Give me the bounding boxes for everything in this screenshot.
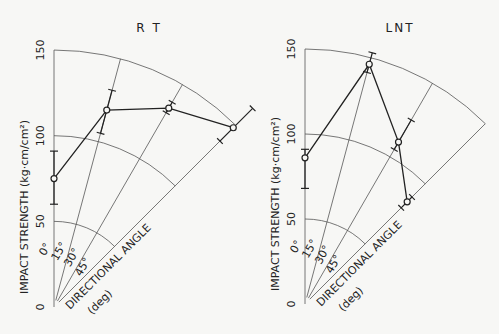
radial-axis-title: IMPACT STRENGTH (kg·cm/cm²) <box>269 117 282 291</box>
radial-arc-100 <box>305 134 425 184</box>
data-point <box>230 125 236 131</box>
radial-tick-label: 0 <box>285 301 298 308</box>
data-point <box>302 155 308 161</box>
radial-tick-label: 50 <box>285 212 298 226</box>
radial-arc-150 <box>54 50 236 125</box>
error-cap <box>408 118 415 122</box>
lnt-panel: 050100150IMPACT STRENGTH (kg·cm/cm²)0°15… <box>269 21 485 314</box>
angle-ray-45 <box>310 124 486 300</box>
radial-axis-title: IMPACT STRENGTH (kg·cm/cm²) <box>18 120 31 294</box>
data-point <box>404 199 410 205</box>
rt-panel: 050100150IMPACT STRENGTH (kg·cm/cm²)0°15… <box>18 21 255 317</box>
radial-tick-label: 0 <box>34 304 47 311</box>
error-cap <box>169 100 176 104</box>
radial-tick-label: 150 <box>285 39 298 60</box>
radial-tick-label: 100 <box>285 124 298 145</box>
data-point <box>366 61 372 67</box>
radial-arc-150 <box>305 49 485 124</box>
panel-title: R T <box>136 21 161 35</box>
error-cap <box>391 147 398 151</box>
data-point <box>104 107 110 113</box>
panel-title: LNT <box>386 21 415 35</box>
radial-tick-label: 150 <box>34 40 47 61</box>
figure: 050100150IMPACT STRENGTH (kg·cm/cm²)0°15… <box>0 0 499 334</box>
radial-arc-100 <box>54 136 175 186</box>
data-point <box>396 139 402 145</box>
polar-charts: 050100150IMPACT STRENGTH (kg·cm/cm²)0°15… <box>0 0 499 334</box>
data-point <box>51 176 57 182</box>
data-point <box>166 105 172 111</box>
radial-tick-label: 50 <box>34 214 47 228</box>
radial-tick-label: 100 <box>34 125 47 146</box>
series-line <box>305 64 407 202</box>
angle-ray-45 <box>59 125 236 302</box>
series-line <box>54 108 233 178</box>
